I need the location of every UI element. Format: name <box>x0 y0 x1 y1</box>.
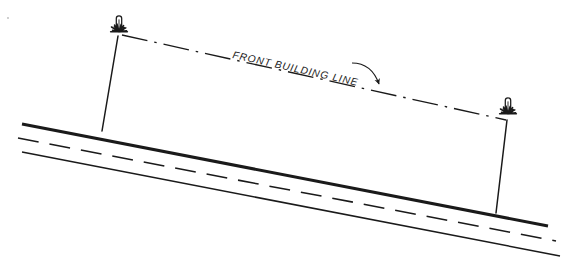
far-pavement-edge <box>22 124 548 226</box>
right-survey-monument <box>500 98 517 114</box>
front-building-line-label: FRONT BUILDING LINE <box>232 49 360 88</box>
left-side-lot-line <box>102 36 118 131</box>
near-pavement-edge <box>22 152 560 256</box>
front-building-line-label-group: FRONT BUILDING LINE <box>232 49 360 88</box>
road-centerline <box>18 138 556 241</box>
street-right-of-way <box>18 124 560 256</box>
survey-diagram-canvas: FRONT BUILDING LINE <box>0 0 567 258</box>
survey-diagram-svg: FRONT BUILDING LINE <box>0 0 567 258</box>
left-survey-monument <box>111 16 128 32</box>
scan-speck <box>7 17 9 19</box>
right-side-lot-line <box>496 120 507 213</box>
